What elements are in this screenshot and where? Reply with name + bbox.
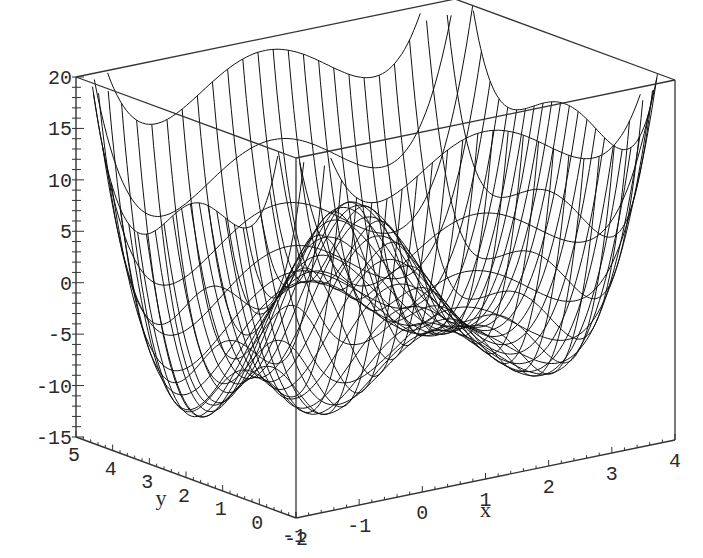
mesh-line [190,106,569,379]
y-axis-name: y [156,485,167,510]
z-tick-label: -15 [36,427,72,450]
z-tick-label: -5 [48,324,72,347]
x-axis-name: x [480,497,491,522]
x-tick-label: -2 [284,528,308,551]
mesh-line [258,52,478,331]
z-tick-label: 20 [48,67,72,90]
wireframe-surface [93,6,658,417]
y-tick-label: 3 [141,471,153,494]
mesh-line [217,129,596,390]
mesh-line [108,91,324,383]
x-tick-label: 0 [416,502,428,525]
y-tick-label: 5 [68,444,80,467]
x-tick-label: 4 [669,450,681,473]
z-tick-label: -10 [36,376,72,399]
box-top-left-edge [76,77,296,158]
mesh-line [427,21,643,299]
mesh-line [108,13,421,124]
y-tick-label: 0 [251,512,263,535]
z-tick-label: 0 [60,273,72,296]
box-top-back-edge [76,0,455,77]
z-tick-label: 10 [48,170,72,193]
surface-plot: 20151050-5-10-15-1012345y-2-101234x [0,0,703,558]
y-tick-label: 2 [178,485,190,508]
box-top-right-edge [455,0,675,80]
x-tick-label: -1 [347,515,371,538]
z-tick-label: 15 [48,118,72,141]
y-tick-label: 1 [215,498,227,521]
z-tick-label: 5 [60,221,72,244]
x-tick-label: 2 [543,476,555,499]
x-tick-label: 3 [606,463,618,486]
y-tick-label: 4 [105,458,117,481]
